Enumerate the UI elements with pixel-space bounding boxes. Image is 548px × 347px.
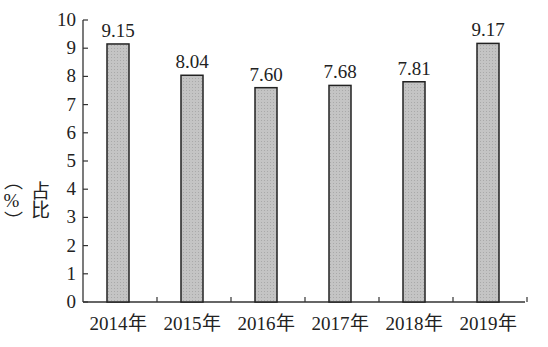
y-tick-label: 9 — [67, 37, 77, 58]
y-tick-label: 8 — [67, 65, 77, 86]
bar — [255, 88, 277, 302]
bar — [477, 43, 499, 302]
bar-chart: 012345678910 2014年2015年2016年2017年2018年20… — [0, 0, 548, 347]
x-tick-label: 2014年 — [90, 313, 147, 334]
x-axis: 2014年2015年2016年2017年2018年2019年 — [83, 297, 527, 334]
bar-value-label: 7.60 — [249, 64, 282, 85]
bar — [181, 75, 203, 302]
bar — [403, 82, 425, 302]
bars: 9.158.047.607.687.819.17 — [101, 19, 504, 302]
x-tick-label: 2018年 — [386, 313, 443, 334]
y-tick-label: 3 — [67, 206, 77, 227]
y-tick-label: 4 — [67, 178, 77, 199]
x-tick-label: 2015年 — [164, 313, 221, 334]
bar-value-label: 9.17 — [471, 19, 504, 40]
y-axis-label: 占比（%） — [22, 160, 52, 240]
y-tick-label: 5 — [67, 150, 77, 171]
bar — [329, 85, 351, 302]
x-tick-label: 2019年 — [460, 313, 517, 334]
y-axis: 012345678910 — [57, 9, 88, 312]
bar-value-label: 9.15 — [101, 20, 134, 41]
x-tick-label: 2017年 — [312, 313, 369, 334]
bar-value-label: 8.04 — [175, 51, 209, 72]
y-tick-label: 1 — [67, 263, 77, 284]
bar-value-label: 7.81 — [397, 58, 430, 79]
y-tick-label: 10 — [57, 9, 76, 30]
bar-value-label: 7.68 — [323, 61, 356, 82]
bar — [107, 44, 129, 302]
y-tick-label: 2 — [67, 235, 77, 256]
y-tick-label: 6 — [67, 122, 77, 143]
y-tick-label: 7 — [67, 94, 77, 115]
y-tick-label: 0 — [67, 291, 77, 312]
x-tick-label: 2016年 — [238, 313, 295, 334]
